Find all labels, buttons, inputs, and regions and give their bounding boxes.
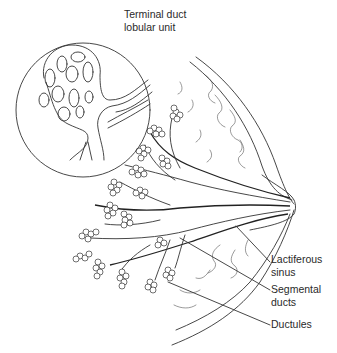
tdlu-inset: [16, 43, 152, 177]
label-segmental-ducts: Segmental ducts: [271, 283, 321, 308]
lobules: [73, 105, 183, 293]
ducts: [90, 118, 290, 280]
label-line: lobular unit: [124, 21, 186, 34]
label-terminal-duct-lobular-unit: Terminal duct lobular unit: [124, 8, 186, 33]
label-line: Ductules: [271, 318, 312, 331]
fat-lobules-lower: [174, 240, 248, 308]
label-ductules: Ductules: [271, 318, 312, 331]
label-line: sinus: [271, 266, 322, 279]
label-line: ducts: [271, 296, 321, 309]
label-line: Lactiferous: [271, 253, 322, 266]
fat-lobules-upper: [178, 75, 245, 168]
label-line: Terminal duct: [124, 8, 186, 21]
label-line: Segmental: [271, 283, 321, 296]
label-lactiferous-sinus: Lactiferous sinus: [271, 253, 322, 278]
